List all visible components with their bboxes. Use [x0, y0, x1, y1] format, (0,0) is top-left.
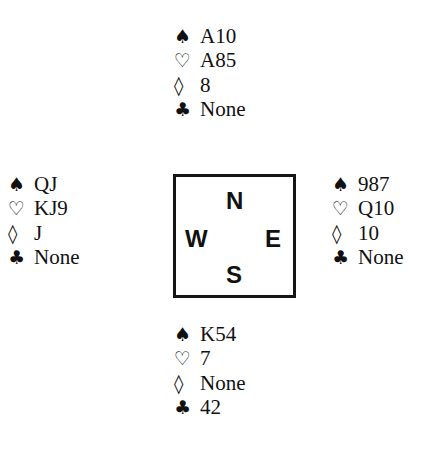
heart-icon: ♡	[174, 51, 200, 70]
north-diamonds-row: ◊8	[174, 73, 246, 98]
north-spades-row: ♠A10	[174, 24, 246, 49]
west-spades-row: ♠QJ	[8, 172, 80, 197]
compass-east: E	[265, 227, 281, 251]
spade-icon: ♠	[174, 27, 200, 46]
club-icon: ♣	[8, 248, 34, 267]
compass-north: N	[226, 189, 243, 213]
south-hearts-row: ♡7	[174, 347, 246, 372]
south-diamonds-row: ◊None	[174, 371, 246, 396]
compass-south: S	[226, 263, 242, 287]
compass-west: W	[185, 227, 208, 251]
north-spades: A10	[200, 26, 236, 47]
heart-icon: ♡	[8, 199, 34, 218]
south-clubs: 42	[200, 397, 221, 418]
east-hearts: Q10	[358, 198, 394, 219]
diamond-icon: ◊	[332, 224, 358, 243]
club-icon: ♣	[174, 398, 200, 417]
east-diamonds: 10	[358, 223, 379, 244]
west-spades: QJ	[34, 174, 57, 195]
east-clubs-row: ♣None	[332, 246, 404, 271]
west-hearts: KJ9	[34, 198, 68, 219]
diamond-icon: ◊	[8, 224, 34, 243]
south-spades: K54	[200, 324, 236, 345]
compass-box: N W E S	[173, 174, 296, 298]
spade-icon: ♠	[8, 175, 34, 194]
south-diamonds: None	[200, 373, 246, 394]
north-clubs-row: ♣None	[174, 98, 246, 123]
heart-icon: ♡	[332, 199, 358, 218]
north-hearts: A85	[200, 50, 236, 71]
west-clubs: None	[34, 247, 80, 268]
west-diamonds: J	[34, 223, 42, 244]
north-hearts-row: ♡A85	[174, 49, 246, 74]
heart-icon: ♡	[174, 349, 200, 368]
west-clubs-row: ♣None	[8, 246, 80, 271]
south-hand: ♠K54 ♡7 ◊None ♣42	[174, 322, 246, 420]
east-hearts-row: ♡Q10	[332, 197, 404, 222]
spade-icon: ♠	[174, 325, 200, 344]
north-hand: ♠A10 ♡A85 ◊8 ♣None	[174, 24, 246, 122]
west-diamonds-row: ◊J	[8, 221, 80, 246]
south-spades-row: ♠K54	[174, 322, 246, 347]
club-icon: ♣	[332, 248, 358, 267]
south-clubs-row: ♣42	[174, 396, 246, 421]
west-hearts-row: ♡KJ9	[8, 197, 80, 222]
south-hearts: 7	[200, 348, 211, 369]
north-diamonds: 8	[200, 75, 211, 96]
east-clubs: None	[358, 247, 404, 268]
diamond-icon: ◊	[174, 76, 200, 95]
north-clubs: None	[200, 99, 246, 120]
spade-icon: ♠	[332, 175, 358, 194]
diamond-icon: ◊	[174, 374, 200, 393]
east-spades: 987	[358, 174, 390, 195]
west-hand: ♠QJ ♡KJ9 ◊J ♣None	[8, 172, 80, 270]
club-icon: ♣	[174, 100, 200, 119]
east-spades-row: ♠987	[332, 172, 404, 197]
east-diamonds-row: ◊10	[332, 221, 404, 246]
east-hand: ♠987 ♡Q10 ◊10 ♣None	[332, 172, 404, 270]
